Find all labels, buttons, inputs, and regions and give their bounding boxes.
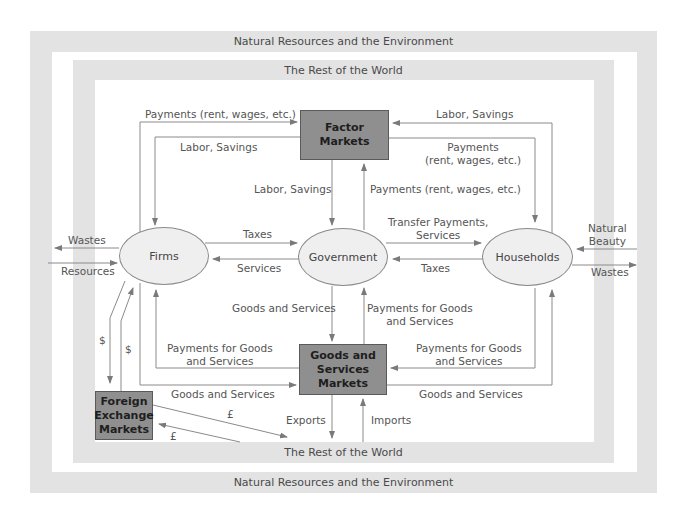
label-firms-goods: Goods and Services	[171, 388, 275, 401]
label-line: Natural	[588, 222, 627, 235]
forex-line1: Foreign	[94, 395, 154, 409]
factor-markets-box[interactable]: Factor Markets	[300, 110, 389, 160]
label-dollar-in: $	[125, 343, 132, 356]
households-label: Households	[496, 251, 560, 264]
forex-line3: Markets	[94, 423, 154, 437]
label-goods-gov: Goods and Services	[232, 302, 336, 315]
label-line: and Services	[167, 355, 273, 368]
label-factor-firms-labor: Labor, Savings	[180, 141, 257, 154]
label-households-gov-taxes: Taxes	[421, 262, 450, 275]
goods-services-line3: Markets	[310, 377, 376, 391]
label-firms-factor-payments: Payments (rent, wages, etc.)	[145, 108, 296, 121]
label-gov-goods-payments: Payments for Goods and Services	[367, 302, 473, 328]
label-households-goods-payments: Payments for Goods and Services	[416, 342, 522, 368]
label-natural-beauty: Natural Beauty	[588, 222, 627, 248]
households-node[interactable]: Households	[482, 228, 573, 286]
label-line: Transfer Payments,	[388, 216, 488, 229]
government-node[interactable]: Government	[298, 228, 388, 286]
label-firms-resources: Resources	[61, 265, 115, 278]
label-goods-households: Goods and Services	[419, 388, 523, 401]
label-firms-wastes: Wastes	[68, 234, 106, 247]
label-imports: Imports	[371, 414, 411, 427]
label-line: Payments	[425, 141, 521, 154]
label-exports: Exports	[286, 414, 326, 427]
label-line: Services	[388, 229, 488, 242]
forex-line2: Exchange	[94, 409, 154, 423]
label-gov-factor-payments: Payments (rent, wages, etc.)	[370, 183, 521, 196]
goods-services-line1: Goods and	[310, 349, 376, 363]
label-pound-in: £	[170, 430, 177, 443]
label-factor-gov-labor: Labor, Savings	[254, 183, 331, 196]
label-line: (rent, wages, etc.)	[425, 154, 521, 167]
label-gov-households-transfer: Transfer Payments, Services	[388, 216, 488, 242]
goods-services-markets-box[interactable]: Goods and Services Markets	[299, 344, 387, 395]
label-firms-gov-taxes: Taxes	[243, 228, 272, 241]
government-label: Government	[309, 251, 378, 264]
label-pound-out: £	[227, 408, 234, 421]
label-line: Payments for Goods	[367, 302, 473, 315]
label-line: Payments for Goods	[416, 342, 522, 355]
goods-services-line2: Services	[310, 363, 376, 377]
label-line: and Services	[367, 315, 473, 328]
label-line: Beauty	[588, 235, 627, 248]
firms-label: Firms	[149, 250, 178, 263]
label-gov-firms-services: Services	[237, 262, 281, 275]
label-factor-households-payments: Payments (rent, wages, etc.)	[425, 141, 521, 167]
label-households-factor-labor: Labor, Savings	[436, 108, 513, 121]
label-dollar-out: $	[99, 334, 106, 347]
label-line: Payments for Goods	[167, 342, 273, 355]
firms-node[interactable]: Firms	[119, 227, 209, 285]
foreign-exchange-markets-box[interactable]: Foreign Exchange Markets	[95, 391, 153, 440]
label-line: and Services	[416, 355, 522, 368]
factor-markets-label: Factor Markets	[301, 121, 388, 149]
label-goods-firms-payments: Payments for Goods and Services	[167, 342, 273, 368]
label-households-wastes: Wastes	[591, 266, 629, 279]
